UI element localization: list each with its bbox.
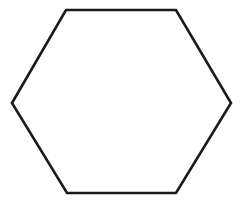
- figure-canvas: [0, 0, 242, 205]
- hexagon-shape: [12, 10, 231, 193]
- hexagon-drawing: [0, 0, 242, 205]
